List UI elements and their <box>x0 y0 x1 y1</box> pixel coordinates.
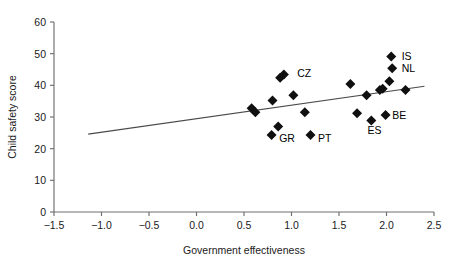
data-point <box>401 85 411 95</box>
point-label: CZ <box>297 67 312 79</box>
y-tick-label: 30 <box>34 111 46 123</box>
point-label: NL <box>402 62 416 74</box>
x-axis-title: Government effectiveness <box>183 244 305 256</box>
x-tick-label: 2.0 <box>379 219 394 231</box>
data-point <box>381 110 391 120</box>
point-label: PT <box>318 132 332 144</box>
data-point <box>268 96 278 106</box>
y-tick-label: 50 <box>34 48 46 60</box>
x-tick-label: −1.0 <box>91 219 112 231</box>
y-tick-label: 40 <box>34 79 46 91</box>
x-tick-label: −1.5 <box>44 219 65 231</box>
point-label: BE <box>392 109 406 121</box>
x-tick-label: 2.5 <box>427 219 442 231</box>
y-tick-label: 20 <box>34 143 46 155</box>
data-point <box>386 52 396 62</box>
point-label: GR <box>279 132 295 144</box>
data-point <box>362 90 372 100</box>
data-point <box>273 122 283 132</box>
x-tick-label: −0.5 <box>139 219 160 231</box>
y-tick-label: 0 <box>40 206 46 218</box>
data-point <box>384 76 394 86</box>
scatter-chart: −1.5−1.0−0.50.00.51.01.52.02.50102030405… <box>0 0 450 272</box>
data-point <box>306 130 316 140</box>
data-point <box>345 79 355 89</box>
x-tick-label: 1.0 <box>284 219 299 231</box>
y-tick-label: 60 <box>34 16 46 28</box>
data-point <box>387 63 397 73</box>
data-point <box>267 130 277 140</box>
x-tick-label: 0.5 <box>237 219 252 231</box>
x-tick-label: 0.0 <box>189 219 204 231</box>
data-point <box>300 107 310 117</box>
x-tick-label: 1.5 <box>332 219 347 231</box>
point-label: IS <box>402 50 412 62</box>
axes-group <box>50 22 434 216</box>
data-point <box>352 108 362 118</box>
data-points-group <box>247 52 411 141</box>
point-label: ES <box>368 124 382 136</box>
y-tick-label: 10 <box>34 174 46 186</box>
y-axis-title: Child safety score <box>6 75 18 159</box>
data-point <box>288 90 298 100</box>
plot-area: −1.5−1.0−0.50.00.51.01.52.02.50102030405… <box>0 0 450 272</box>
